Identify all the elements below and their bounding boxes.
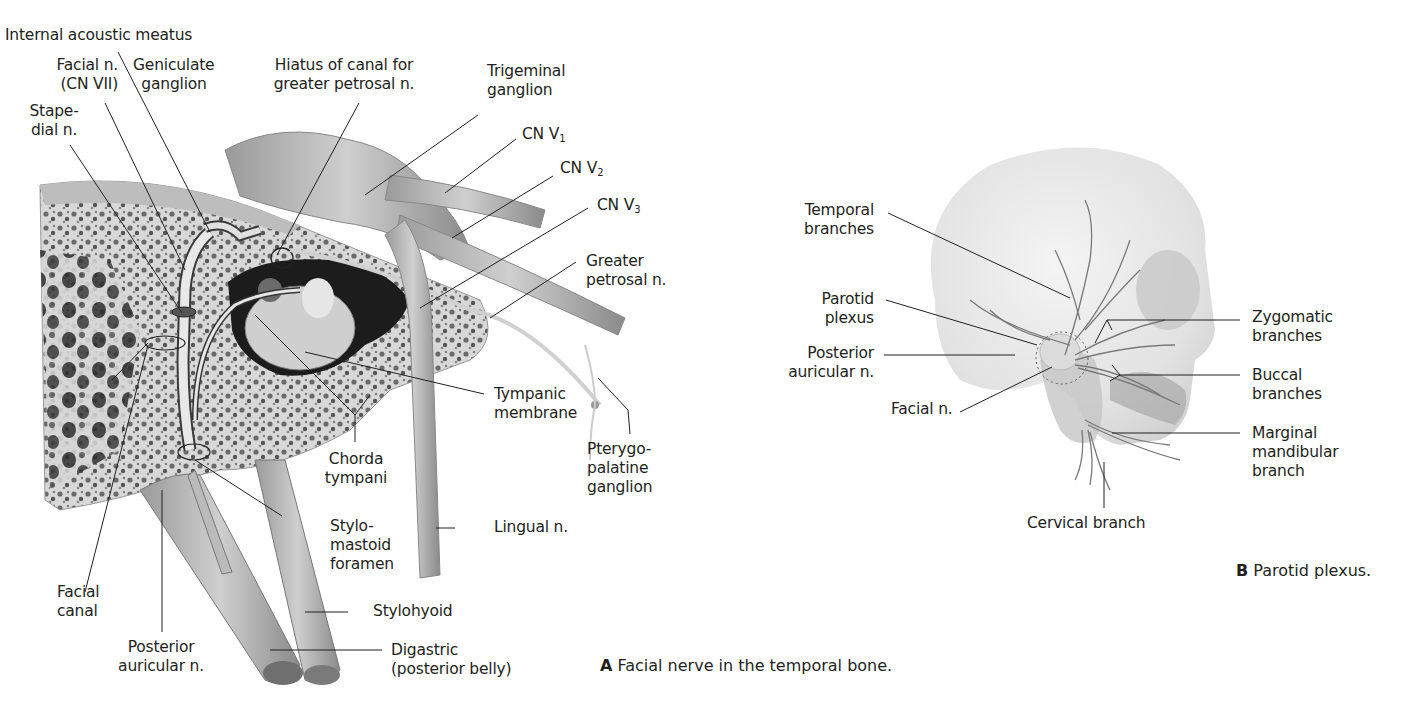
label-marginal-mandibular-branch: Marginal mandibular branch <box>1252 424 1338 481</box>
label-pterygopalatine-ganglion: Pterygo- palatine ganglion <box>587 440 652 497</box>
label-temporal-branches: Temporal branches <box>780 201 874 239</box>
label-cervical-branch: Cervical branch <box>1027 514 1145 533</box>
label-stylohyoid: Stylohyoid <box>373 602 453 621</box>
label-greater-petrosal-nerve: Greater petrosal n. <box>586 252 666 290</box>
caption-panel-b: B Parotid plexus. <box>1236 561 1371 581</box>
label-internal-acoustic-meatus: Internal acoustic meatus <box>5 26 192 45</box>
label-cn-v1: CN V1 <box>522 125 565 148</box>
label-cn-v3: CN V3 <box>597 196 640 219</box>
label-cn-v2: CN V2 <box>560 159 603 182</box>
label-zygomatic-branches: Zygomatic branches <box>1252 308 1333 346</box>
label-stylomastoid-foramen: Stylo- mastoid foramen <box>330 517 394 574</box>
label-facial-canal: Facial canal <box>57 583 99 621</box>
label-tympanic-membrane: Tympanic membrane <box>494 385 577 423</box>
label-posterior-auricular-nerve-b: Posterior auricular n. <box>760 344 874 382</box>
figure: Internal acoustic meatus Facial n. (CN V… <box>0 0 1411 704</box>
label-parotid-plexus: Parotid plexus <box>780 290 874 328</box>
label-hiatus-greater-petrosal: Hiatus of canal for greater petrosal n. <box>263 56 425 94</box>
label-buccal-branches: Buccal branches <box>1252 366 1322 404</box>
label-geniculate-ganglion: Geniculate ganglion <box>133 56 215 94</box>
label-facial-nerve-b: Facial n. <box>891 400 953 419</box>
label-chorda-tympani: Chorda tympani <box>318 450 394 488</box>
label-digastric: Digastric (posterior belly) <box>391 641 511 679</box>
label-lingual-nerve: Lingual n. <box>494 518 568 537</box>
label-trigeminal-ganglion: Trigeminal ganglion <box>487 62 565 100</box>
leader-lines <box>0 0 1411 704</box>
label-facial-nerve-cn7: Facial n. (CN VII) <box>46 56 118 94</box>
caption-panel-a: A Facial nerve in the temporal bone. <box>600 656 892 676</box>
label-stapedial-nerve: Stape- dial n. <box>24 102 84 140</box>
label-posterior-auricular-nerve-a: Posterior auricular n. <box>110 638 212 676</box>
